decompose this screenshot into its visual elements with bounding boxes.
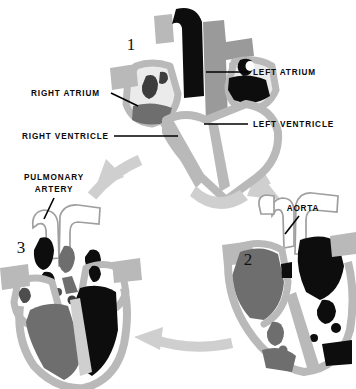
heart-phase-3: 3	[0, 205, 142, 388]
septal-ejection-b-3	[62, 276, 78, 294]
label-pulmonary-artery-line2: ARTERY	[35, 185, 73, 194]
phase-numeral-1: 1	[127, 35, 136, 54]
phase-numeral-2: 2	[244, 250, 253, 269]
mitral-droplet-2	[331, 323, 341, 333]
left-atrium-blood-1	[228, 75, 270, 103]
left-ventricle-blood-2	[322, 340, 352, 366]
cardiac-cycle-figure: 1 2	[0, 0, 356, 389]
label-left-ventricle: LEFT VENTRICLE	[253, 120, 334, 129]
arrow-3-to-1	[92, 159, 140, 196]
label-aorta: AORTA	[287, 204, 320, 213]
aortic-valve-2	[281, 262, 292, 278]
pulmonary-vein-stub-3	[112, 258, 142, 283]
heart-phase-2: 2	[222, 193, 356, 372]
pulmonary-ejection-3	[34, 237, 54, 270]
label-pulmonary-artery: PULMONARY	[24, 173, 84, 182]
label-right-atrium: RIGHT ATRIUM	[31, 89, 100, 98]
label-left-atrium: LEFT ATRIUM	[253, 68, 316, 77]
heart-phase-1: 1	[110, 8, 278, 209]
label-right-ventricle: RIGHT VENTRICLE	[22, 132, 109, 141]
phase-numeral-3: 3	[17, 238, 26, 257]
vena-cava-stub-3	[0, 264, 30, 290]
superior-vena-cava-1	[154, 14, 174, 44]
pulmonary-vein-stub-2	[330, 232, 356, 257]
mitral-flow-2	[317, 300, 336, 324]
right-ventricle-blood-2	[262, 348, 296, 372]
superior-vena-cava-2	[259, 195, 274, 214]
cardiac-cycle-diagram: 1 2	[0, 0, 356, 389]
arrow-2-to-3	[134, 327, 232, 350]
right-atrium-inlet-1	[110, 64, 138, 90]
tricuspid-flow-2	[267, 322, 284, 346]
